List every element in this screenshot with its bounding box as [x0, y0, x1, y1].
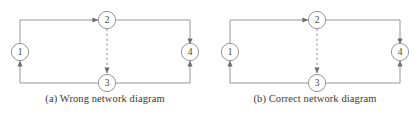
node-2[interactable]: 2 [308, 11, 325, 28]
diagram-canvas-a: 1 2 3 4 [0, 0, 210, 96]
node-4[interactable]: 4 [391, 43, 408, 60]
node-4[interactable]: 4 [181, 43, 198, 60]
node-1-label: 1 [228, 47, 233, 57]
node-3-label: 3 [315, 78, 320, 88]
node-2[interactable]: 2 [98, 11, 115, 28]
node-1[interactable]: 1 [221, 43, 238, 60]
edge-3-to-4 [326, 61, 400, 83]
diagram-canvas-b: 1 2 3 4 [210, 0, 420, 96]
node-1-label: 1 [18, 47, 23, 57]
edge-1-to-2 [20, 20, 98, 44]
node-3-label: 3 [105, 78, 110, 88]
node-group-a: 1 2 3 4 [11, 11, 198, 91]
panel-a-caption: (a) Wrong network diagram [0, 92, 210, 106]
node-1[interactable]: 1 [11, 43, 28, 60]
node-4-label: 4 [398, 47, 403, 57]
edge-3-to-4 [116, 61, 190, 83]
panel-b-caption: (b) Correct network diagram [210, 92, 420, 106]
node-2-label: 2 [315, 15, 320, 25]
diagram-panel-b: 1 2 3 4 (b) Correct network diagram [210, 0, 420, 117]
edge-1-to-2 [230, 20, 308, 44]
network-diagram-figure: 1 2 3 4 (a) Wrong network diagram [0, 0, 420, 117]
diagram-panel-a: 1 2 3 4 (a) Wrong network diagram [0, 0, 210, 117]
node-group-b: 1 2 3 4 [221, 11, 408, 91]
node-2-label: 2 [105, 15, 110, 25]
edge-2-to-4 [326, 20, 400, 44]
node-3[interactable]: 3 [98, 74, 115, 91]
node-4-label: 4 [188, 47, 193, 57]
edge-2-to-4 [116, 20, 190, 44]
node-3[interactable]: 3 [308, 74, 325, 91]
